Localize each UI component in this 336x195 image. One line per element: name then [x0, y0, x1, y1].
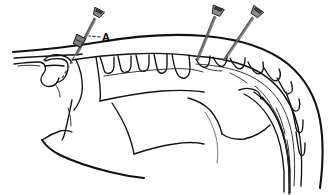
axis-body-outline — [45, 65, 64, 66]
label-a-text: A — [102, 31, 110, 43]
anatomical-figure: Lateral view of canine cervicothoracic v… — [0, 0, 336, 195]
figure-canvas: Lateral view of canine cervicothoracic v… — [0, 0, 336, 195]
